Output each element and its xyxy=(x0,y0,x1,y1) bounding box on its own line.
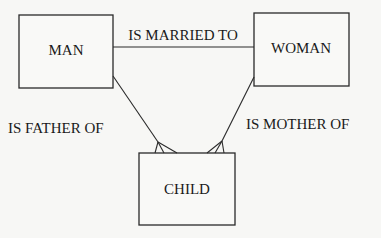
relationship-married[interactable]: IS MARRIED TO xyxy=(113,27,254,47)
mother-label: IS MOTHER OF xyxy=(246,116,349,132)
father-label: IS FATHER OF xyxy=(8,120,104,136)
entity-woman[interactable]: WOMAN xyxy=(254,13,349,86)
entity-man-label: MAN xyxy=(48,42,83,58)
crows-foot-icon xyxy=(207,141,224,153)
entity-child-label: CHILD xyxy=(164,181,210,197)
er-diagram: MAN WOMAN CHILD IS MARRIED TO IS FATHER … xyxy=(0,0,381,238)
relationship-mother[interactable]: IS MOTHER OF xyxy=(207,77,349,153)
entity-child[interactable]: CHILD xyxy=(139,153,235,225)
married-label: IS MARRIED TO xyxy=(128,27,238,43)
entity-woman-label: WOMAN xyxy=(271,40,331,56)
father-line xyxy=(113,76,158,142)
entity-man[interactable]: MAN xyxy=(19,15,113,88)
crows-foot-icon xyxy=(155,142,177,153)
